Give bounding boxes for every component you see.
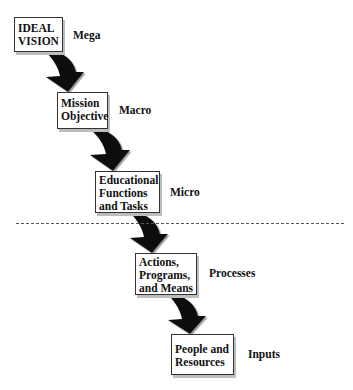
box-label: IDEAL [18,22,59,35]
box-label: Functions [99,187,156,200]
box-label: People and [175,343,230,356]
arrow-2-icon [88,127,130,171]
arrow-4-icon [166,293,206,334]
level-label-macro: Macro [119,104,151,116]
box-label: Mission [61,97,104,110]
arrow-3-icon [128,211,168,253]
level-label-mega: Mega [73,29,100,41]
divider-dashed-line [16,223,344,224]
box-label: and Tasks [99,200,156,213]
box-label: Actions, [139,256,193,269]
level-label-inputs: Inputs [248,348,280,360]
box-educational-functions: Educational Functions and Tasks [95,171,160,213]
box-label: Educational [99,174,156,187]
box-label: Programs, [139,269,193,282]
box-label: and Means [139,282,193,295]
box-people-resources: People and Resources [171,334,234,375]
level-label-processes: Processes [209,267,255,279]
box-mission-objective: Mission Objective [57,92,108,129]
box-label: Objective [61,110,104,123]
arrow-1-icon [44,50,84,92]
level-label-micro: Micro [170,186,200,198]
box-actions-programs: Actions, Programs, and Means [135,253,197,295]
box-ideal-vision: IDEAL VISION [14,17,63,52]
box-label: VISION [18,35,59,48]
box-label: Resources [175,356,230,369]
